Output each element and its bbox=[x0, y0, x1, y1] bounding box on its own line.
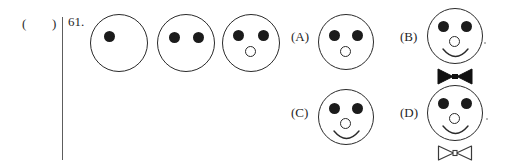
eye-right bbox=[352, 30, 363, 41]
eye-right bbox=[461, 98, 472, 109]
answer-blank[interactable]: ( ) bbox=[22, 16, 60, 32]
scan-speck bbox=[486, 118, 488, 120]
scan-speck bbox=[484, 42, 486, 44]
option-d[interactable] bbox=[427, 85, 483, 163]
nose-circle bbox=[449, 113, 460, 124]
eye-right bbox=[352, 103, 363, 114]
nose-circle bbox=[449, 36, 460, 47]
eye-right bbox=[461, 21, 472, 32]
question-number: 61. bbox=[68, 14, 84, 30]
eye-left bbox=[438, 98, 449, 109]
option-c-label: (C) bbox=[291, 105, 308, 121]
eye-left bbox=[438, 21, 449, 32]
eye-left bbox=[329, 103, 340, 114]
option-b-label: (B) bbox=[400, 29, 417, 45]
smile-curve bbox=[442, 126, 469, 138]
eye-left bbox=[329, 30, 340, 41]
face-outline bbox=[318, 14, 374, 70]
option-c[interactable] bbox=[318, 89, 374, 147]
face-outline bbox=[90, 14, 148, 72]
bowtie-filled bbox=[437, 68, 473, 85]
vertical-divider bbox=[62, 17, 63, 160]
bowtie-outlined bbox=[437, 144, 473, 162]
option-a[interactable] bbox=[318, 14, 374, 70]
face-outline bbox=[222, 14, 280, 72]
sequence-figure-1 bbox=[90, 14, 148, 72]
eye-left bbox=[233, 30, 244, 41]
face-outline bbox=[157, 14, 215, 72]
option-d-label: (D) bbox=[400, 105, 418, 121]
smile-curve bbox=[333, 131, 360, 143]
eye-right bbox=[193, 32, 204, 43]
option-b[interactable] bbox=[427, 8, 483, 86]
worksheet-page: ( ) 61. (A) (B) bbox=[0, 0, 509, 165]
eye-left bbox=[104, 31, 115, 42]
nose-circle bbox=[245, 46, 256, 57]
sequence-figure-3 bbox=[222, 14, 280, 72]
nose-circle bbox=[340, 46, 351, 57]
eye-right bbox=[258, 30, 269, 41]
eye-left bbox=[169, 32, 180, 43]
smile-curve bbox=[442, 49, 469, 61]
nose-circle bbox=[340, 118, 351, 129]
sequence-figure-2 bbox=[157, 14, 215, 72]
option-a-label: (A) bbox=[291, 29, 309, 45]
